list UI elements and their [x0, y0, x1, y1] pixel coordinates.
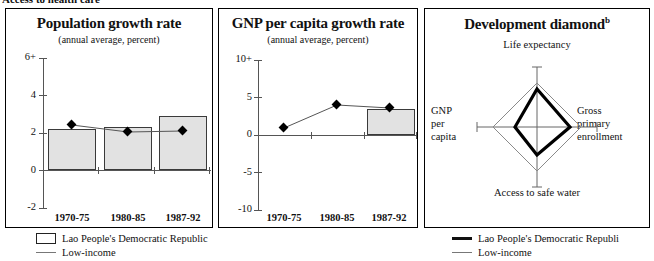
- clipped-header-text: Access to health care: [2, 0, 100, 5]
- x-tick-label-1980-85: 1980-85: [98, 212, 158, 223]
- diamond-plot: [425, 9, 650, 228]
- legend-swatch-box-icon: [36, 233, 56, 244]
- legend-row-reference: Low-income: [36, 246, 208, 259]
- legend-label-country: Lao People's Democratic Republic: [62, 233, 208, 244]
- legend-row-country: Lao People's Democratic Republic: [36, 232, 208, 245]
- legend-row-reference-diamond: Low-income: [452, 246, 654, 259]
- panel-gnp-growth: GNP per capita growth rate (annual avera…: [218, 8, 418, 228]
- legend-label-reference: Low-income: [62, 247, 116, 258]
- legend-development-diamond: Lao People's Democratic Republi Low-inco…: [452, 232, 654, 260]
- legend-label-reference-diamond: Low-income: [478, 247, 532, 258]
- legend-swatch-thin-line-icon: [452, 252, 472, 253]
- legend-bar-charts: Lao People's Democratic Republic Low-inc…: [36, 232, 208, 260]
- legend-label-country-diamond: Lao People's Democratic Republi: [478, 233, 619, 244]
- gnp-x-tick-label-1987-92: 1987-92: [360, 212, 418, 223]
- diamond-series-lao-pdr: [515, 89, 570, 155]
- panel-row: Population growth rate (annual average, …: [0, 8, 654, 228]
- reference-line-low-income: [6, 9, 213, 228]
- legend-row-country-diamond: Lao People's Democratic Republi: [452, 232, 654, 245]
- x-tick-label-1970-75: 1970-75: [42, 212, 102, 223]
- legend-swatch-thick-line-icon: [452, 237, 472, 240]
- gnp-reference-line-low-income: [219, 9, 418, 228]
- gnp-x-tick-label-1980-85: 1980-85: [308, 212, 366, 223]
- panel-development-diamond: Development diamondb Life expectancy Acc…: [424, 8, 650, 228]
- panel-population-growth: Population growth rate (annual average, …: [5, 8, 213, 228]
- x-tick-label-1987-92: 1987-92: [153, 212, 213, 223]
- gnp-x-tick-label-1970-75: 1970-75: [255, 212, 313, 223]
- legend-swatch-line-icon: [36, 252, 56, 253]
